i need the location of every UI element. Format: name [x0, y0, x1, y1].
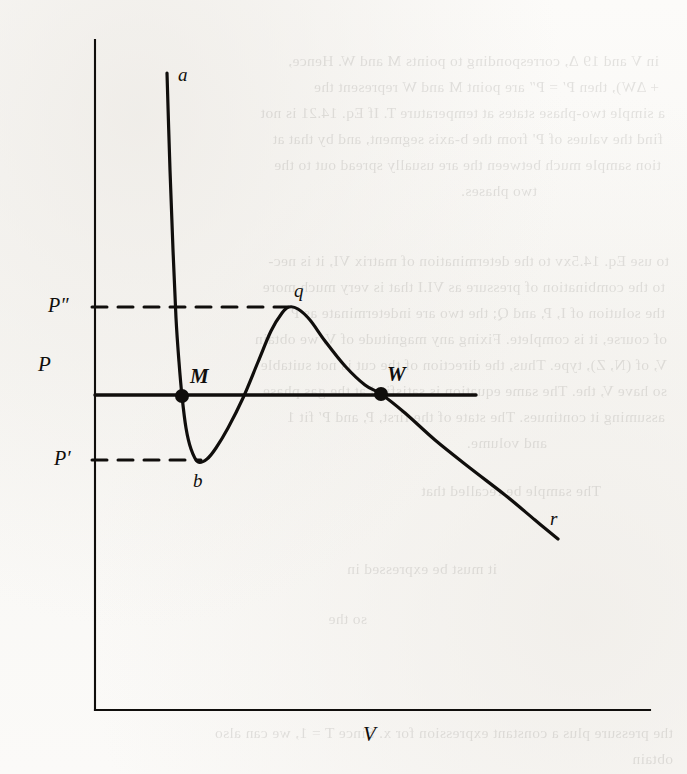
marker-point-w [374, 387, 388, 401]
curve-label-q: q [294, 280, 304, 302]
construction-lines-group [92, 307, 476, 460]
point-label-w: W [387, 362, 406, 387]
tick-label-p-prime: P′ [54, 447, 71, 470]
tick-label-p-double-prime: P″ [48, 294, 69, 317]
scanned-page: in V and 19 Δ, corresponding to points M… [0, 0, 687, 774]
pv-isotherm-figure [0, 0, 687, 774]
axes-group [95, 40, 650, 710]
curve-label-r: r [550, 508, 557, 530]
point-label-m: M [190, 364, 209, 389]
x-axis-label: V [363, 722, 376, 747]
marker-point-m [175, 389, 189, 403]
curve-label-a: a [178, 64, 188, 86]
y-axis-label: P [38, 352, 51, 377]
curve-label-b: b [193, 470, 203, 492]
